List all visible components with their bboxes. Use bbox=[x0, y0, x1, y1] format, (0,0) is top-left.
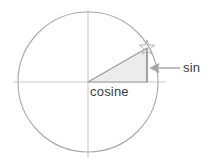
cosine-label: cosine bbox=[90, 85, 129, 99]
right-triangle bbox=[88, 48, 147, 82]
sin-arrow-head-icon bbox=[150, 64, 159, 73]
unit-circle-diagram: cosine sin bbox=[0, 0, 212, 165]
sin-label: sin bbox=[183, 61, 200, 75]
unit-circle-graphic bbox=[0, 0, 212, 165]
